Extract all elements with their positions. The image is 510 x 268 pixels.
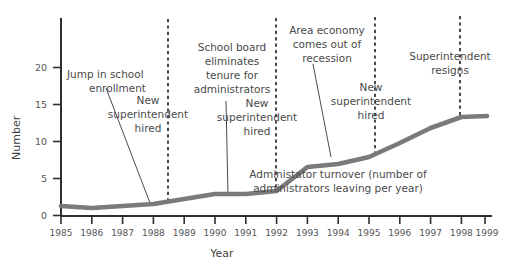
y-tick-label-20: 20 (35, 62, 47, 73)
annotation-line: hired (358, 109, 385, 121)
x-label-1986: 1986 (80, 228, 103, 238)
data-series-administrator-turnover (61, 116, 487, 208)
annotation-line: Superintendent (409, 50, 490, 62)
annotation-line: New (360, 81, 383, 93)
x-label-1987: 1987 (111, 228, 134, 238)
line-chart: 0 5 10 15 20 Number 1985 (0, 0, 510, 268)
x-label-1995: 1995 (358, 228, 381, 238)
y-axis-title: Number (10, 115, 23, 160)
annotation-line: hired (244, 125, 271, 137)
annotation-superintendent-resigns: Superintendent resigns (409, 50, 490, 76)
x-label-1994: 1994 (327, 228, 350, 238)
annotation-school-board-eliminates-tenure: School board eliminates tenure for admin… (194, 41, 270, 95)
annotation-line: comes out of (293, 38, 362, 50)
y-tick-label-0: 0 (41, 210, 47, 221)
series-caption-line: Administator turnover (number of (249, 168, 427, 180)
y-tick-label-15: 15 (35, 99, 47, 110)
annotation-new-superintendent-hired-1996: New superintendent hired (331, 81, 411, 121)
annotation-line: Area economy (289, 24, 365, 36)
x-label-1998: 1998 (450, 228, 473, 238)
annotation-line: enrollment (89, 82, 146, 94)
x-ticks (61, 216, 485, 224)
annotation-line: hired (135, 122, 162, 134)
y-tick-label-10: 10 (35, 136, 47, 147)
y-tick-label-5: 5 (41, 173, 47, 184)
chart-container: 0 5 10 15 20 Number 1985 (0, 0, 510, 268)
annotation-new-superintendent-hired-1988: New superintendent hired (108, 94, 188, 134)
x-label-1992: 1992 (265, 228, 288, 238)
x-label-1993: 1993 (296, 228, 319, 238)
annotation-line: recession (302, 52, 352, 64)
series-caption-line: administrators leaving per year) (253, 182, 423, 194)
annotation-line: School board (198, 41, 267, 53)
x-label-1996: 1996 (388, 228, 411, 238)
annotation-line: administrators (194, 83, 270, 95)
annotation-jump-in-school-enrollment: Jump in school enrollment (66, 68, 146, 94)
annotation-line: superintendent (108, 108, 188, 120)
x-label-1991: 1991 (234, 228, 257, 238)
x-label-1985: 1985 (50, 228, 73, 238)
annotation-new-superintendent-hired-1992: New superintendent hired (217, 97, 297, 137)
annotation-line: superintendent (331, 95, 411, 107)
x-label-1989: 1989 (173, 228, 196, 238)
leader-line-area-economy-recession (313, 64, 331, 157)
annotation-line: tenure for (206, 69, 259, 81)
annotation-line: Jump in school (66, 68, 144, 80)
x-label-1990: 1990 (204, 228, 227, 238)
annotation-area-economy-recession: Area economy comes out of recession (289, 24, 365, 64)
annotation-line: New (137, 94, 160, 106)
annotation-line: eliminates (205, 55, 260, 67)
annotation-line: New (246, 97, 269, 109)
x-label-1997: 1997 (419, 228, 442, 238)
x-tick-labels: 1985 1986 1987 1988 1989 1990 1991 1992 … (50, 228, 499, 238)
x-label-1988: 1988 (142, 228, 165, 238)
annotation-line: superintendent (217, 111, 297, 123)
x-label-1999: 1999 (476, 228, 499, 238)
y-ticks (53, 68, 61, 216)
x-axis-title: Year (209, 247, 234, 260)
annotation-line: resigns (431, 64, 469, 76)
y-tick-labels: 0 5 10 15 20 (35, 62, 47, 221)
